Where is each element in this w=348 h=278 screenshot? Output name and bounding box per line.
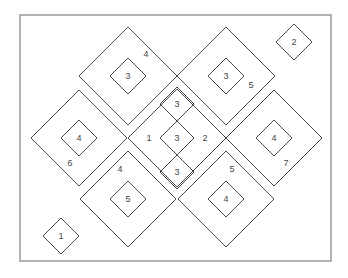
region-label: 1 [146,133,151,143]
diamond-label: 4 [143,49,148,59]
diamond-label: 2 [291,37,296,47]
diagram-canvas: 4353264744554133312 [0,0,348,278]
label-group: 4353264744554133312 [58,37,296,241]
diamond-label: 1 [58,231,63,241]
diamond-label: 3 [223,71,228,81]
diamond-label: 4 [76,133,81,143]
diamond-label: 4 [223,194,228,204]
diamond-label: 5 [248,80,253,90]
diamond-label: 3 [125,71,130,81]
diamond-label: 4 [117,164,122,174]
diamond-label: 3 [174,167,179,177]
region-label: 2 [202,133,207,143]
diamond-label: 5 [125,194,130,204]
diamond-label: 3 [174,99,179,109]
diamond-label: 6 [67,158,72,168]
diamond-label: 7 [283,158,288,168]
diamond-label: 4 [271,133,276,143]
diamond-label: 3 [174,133,179,143]
diamond-label: 5 [229,164,234,174]
